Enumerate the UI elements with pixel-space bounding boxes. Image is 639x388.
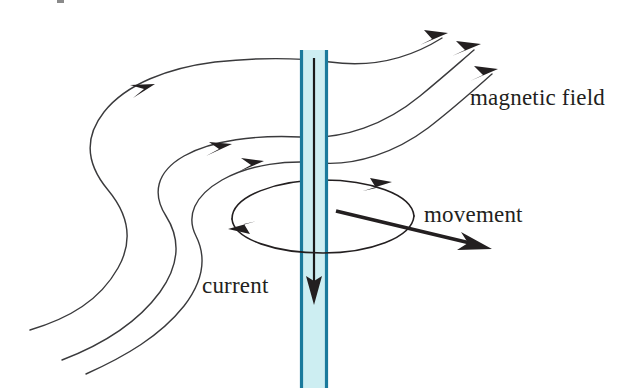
field-line-middle: [62, 50, 474, 360]
field-arrow-middle-right: [452, 41, 481, 56]
scan-artifact-speck: [57, 0, 64, 3]
field-arrow-outer-left: [130, 84, 155, 98]
magnetic-field-diagram: magnetic field movement current: [0, 0, 639, 388]
field-arrow-middle-left: [206, 142, 232, 156]
diagram-canvas: [0, 0, 639, 388]
label-magnetic-field: magnetic field: [470, 86, 605, 109]
label-movement: movement: [424, 203, 523, 226]
field-arrow-inner-right: [470, 66, 498, 81]
label-current: current: [202, 274, 269, 297]
field-arrow-inner-left: [238, 158, 264, 172]
